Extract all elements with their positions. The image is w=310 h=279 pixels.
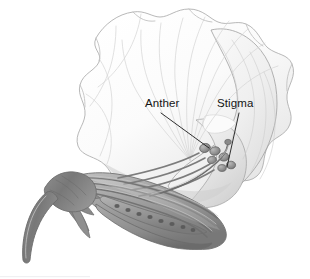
flower-illustration [0, 0, 310, 279]
flower-anatomy-figure: Anther Stigma [0, 0, 310, 279]
baseline-hint [0, 276, 90, 277]
label-anther: Anther [145, 97, 179, 109]
anther-lobe [218, 165, 226, 172]
calyx-stem-group [23, 172, 100, 263]
stigma-tip [225, 139, 232, 144]
label-stigma: Stigma [217, 97, 253, 109]
